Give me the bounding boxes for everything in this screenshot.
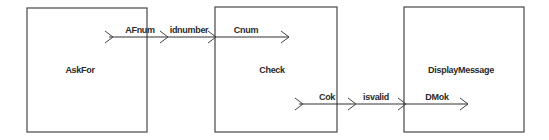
signal-label-isvalid: isvalid <box>363 92 389 102</box>
port-label-dmok: DMok <box>425 92 450 102</box>
block-displaymessage[interactable]: DisplayMessage <box>404 7 524 132</box>
block-check-title: Check <box>259 65 286 75</box>
port-label-cok: Cok <box>319 92 336 102</box>
block-diagram: AskFor Check DisplayMessage AFnum idnumb… <box>0 0 549 140</box>
signal-label-idnumber: idnumber <box>170 25 209 35</box>
block-askfor-title: AskFor <box>65 65 95 75</box>
connection-bottom-flow[interactable]: Cok isvalid DMok <box>295 92 468 110</box>
block-displaymessage-title: DisplayMessage <box>428 65 494 75</box>
port-label-cnum: Cnum <box>234 25 259 35</box>
connection-top-flow[interactable]: AFnum idnumber Cnum <box>105 25 289 43</box>
port-label-afnum: AFnum <box>125 25 155 35</box>
